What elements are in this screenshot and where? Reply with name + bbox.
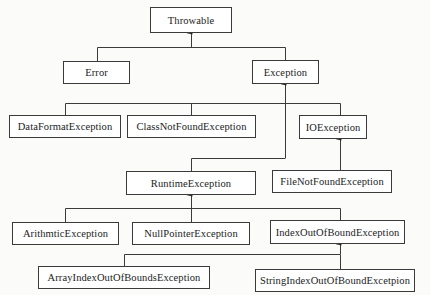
- node-label: IndexOutOfBoundException: [276, 227, 400, 238]
- node-label: Exception: [264, 67, 307, 78]
- edge-exception-bus: [66, 104, 341, 116]
- node-label: DataFormatException: [18, 121, 113, 132]
- node-io-exception: IOException: [299, 115, 367, 139]
- node-runtime-exception: RuntimeException: [126, 171, 256, 195]
- node-error: Error: [63, 61, 130, 84]
- node-label: RuntimeException: [151, 178, 231, 189]
- node-label: ArrayIndexOutOfBoundsException: [48, 272, 201, 283]
- node-label: ArithmticException: [23, 228, 108, 239]
- node-label: Error: [85, 67, 108, 78]
- node-label: Throwable: [168, 15, 214, 26]
- node-exception: Exception: [252, 60, 319, 84]
- node-data-format-exception: DataFormatException: [9, 115, 121, 138]
- node-throwable: Throwable: [150, 7, 232, 33]
- node-arithmtic-exception: ArithmticException: [12, 222, 119, 245]
- node-array-index-out-of-bounds-exception: ArrayIndexOutOfBoundsException: [38, 266, 210, 289]
- class-hierarchy-diagram: Throwable Error Exception DataFormatExce…: [0, 0, 430, 295]
- connector-lines: [0, 0, 430, 295]
- node-label: IOException: [306, 122, 361, 133]
- node-label: StringIndexOutOfBoundExcetpion: [260, 275, 410, 286]
- node-string-index-out-of-bound-excetpion: StringIndexOutOfBoundExcetpion: [255, 269, 415, 292]
- node-label: FileNotFoundException: [280, 176, 384, 187]
- node-null-pointer-exception: NullPointerException: [132, 222, 250, 245]
- edge-throwable-bus: [98, 48, 286, 62]
- node-class-not-found-exception: ClassNotFoundException: [127, 115, 256, 138]
- node-file-not-found-exception: FileNotFoundException: [272, 170, 392, 193]
- node-label: NullPointerException: [144, 228, 238, 239]
- node-label: ClassNotFoundException: [136, 121, 246, 132]
- node-index-out-of-bound-exception: IndexOutOfBoundException: [270, 220, 405, 244]
